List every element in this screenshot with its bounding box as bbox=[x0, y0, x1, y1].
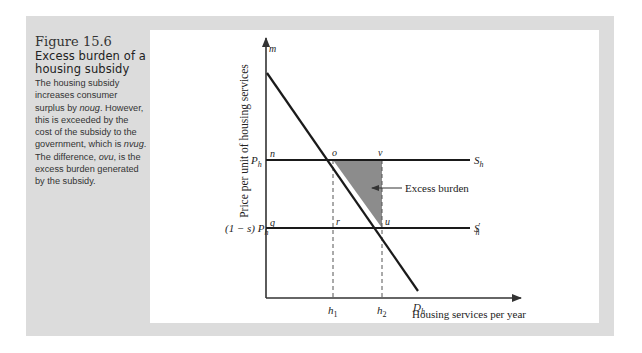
point-o-label: o bbox=[332, 147, 337, 158]
point-r-label: r bbox=[336, 216, 340, 227]
point-m-label: m bbox=[269, 43, 276, 54]
excess-burden-area bbox=[333, 160, 382, 228]
demand-line bbox=[267, 73, 418, 291]
x-axis-label: Housing services per year bbox=[412, 308, 526, 320]
price-ph-label: Ph bbox=[250, 154, 262, 169]
point-n-label: n bbox=[270, 148, 275, 159]
excess-burden-diagram: Excess burden Price per unit of housing … bbox=[0, 0, 642, 353]
subsidized-price-label-text: (1 − s) Ph bbox=[225, 222, 269, 237]
h1-label: h1 bbox=[328, 304, 338, 319]
excess-burden-label: Excess burden bbox=[405, 182, 469, 194]
y-axis-label: Price per unit of housing services bbox=[238, 64, 251, 218]
point-q-label: q bbox=[270, 217, 275, 228]
supply-curve-label: Sh bbox=[474, 154, 484, 169]
point-u-label: u bbox=[385, 216, 390, 227]
point-v-label: v bbox=[378, 147, 383, 158]
h2-label: h2 bbox=[377, 304, 387, 319]
subsidized-supply-curve-label: S′h bbox=[474, 221, 481, 237]
